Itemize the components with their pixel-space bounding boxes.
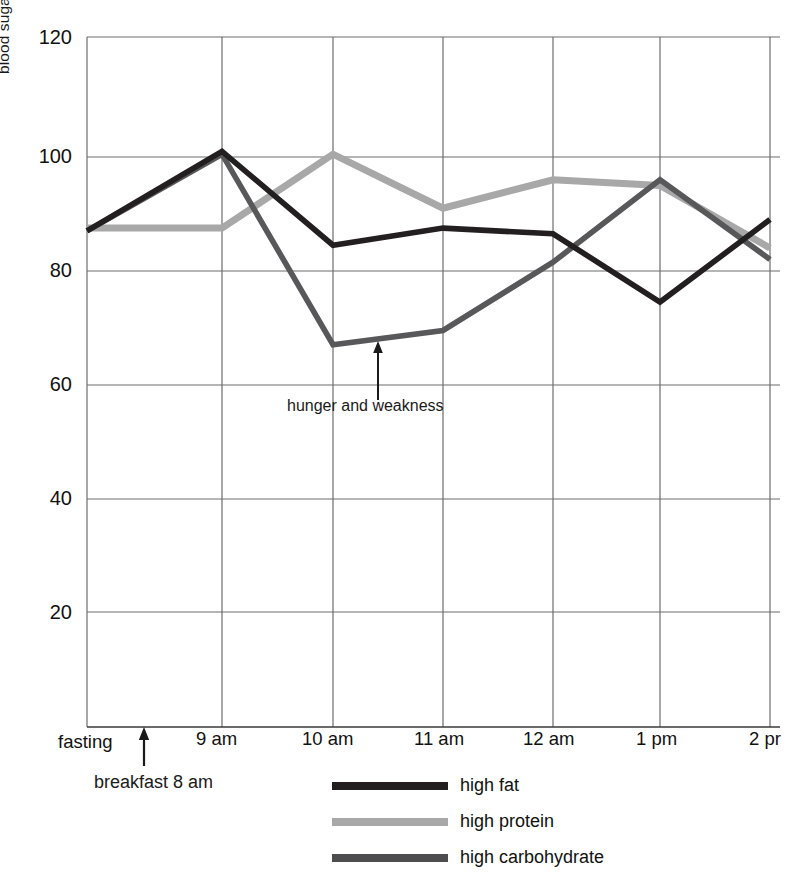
x-tick-10am: 10 am [302, 728, 353, 750]
legend-label-high-protein: high protein [460, 811, 554, 832]
breakfast-annotation-label: breakfast 8 am [94, 772, 213, 793]
legend-label-high-carbohydrate: high carbohydrate [460, 847, 604, 868]
horizontal-gridlines [87, 37, 780, 612]
blood-sugar-line-chart: blood sugar mg. per 100 cc 120 100 80 60… [0, 0, 792, 883]
series-high-carbohydrate [87, 154, 770, 345]
x-tick-fasting: fasting [58, 731, 113, 753]
x-tick-2pm: 2 pr [749, 728, 781, 750]
x-tick-12am: 12 am [523, 728, 574, 750]
breakfast-annotation-arrow [139, 727, 149, 766]
hunger-annotation-arrow [373, 341, 383, 400]
x-tick-1pm: 1 pm [636, 728, 677, 750]
x-tick-11am: 11 am [414, 728, 464, 750]
plot-area [0, 0, 792, 883]
x-tick-9am: 9 am [196, 728, 237, 750]
legend-swatches [332, 786, 448, 858]
vertical-gridlines [87, 37, 770, 727]
hunger-annotation-label: hunger and weakness [287, 397, 444, 415]
legend-label-high-fat: high fat [460, 775, 519, 796]
